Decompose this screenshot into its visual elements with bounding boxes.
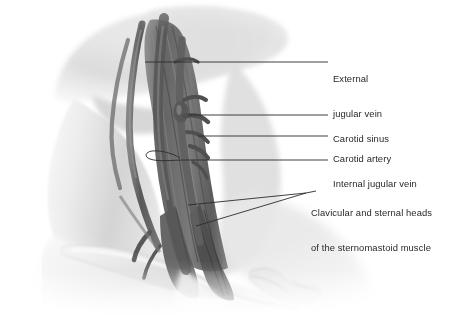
label-sternomastoid-heads-line1: Clavicular and sternal heads — [311, 207, 432, 219]
label-external-jugular-line1: External — [333, 73, 382, 85]
label-sternomastoid-heads-line2: of the sternomastoid muscle — [311, 242, 432, 254]
label-sternomastoid-heads: Clavicular and sternal heads of the ster… — [311, 184, 432, 277]
anatomy-figure: External jugular vein Carotid sinus Caro… — [0, 0, 449, 322]
carotid-sinus-highlight — [176, 105, 181, 115]
left-fade — [0, 0, 42, 322]
